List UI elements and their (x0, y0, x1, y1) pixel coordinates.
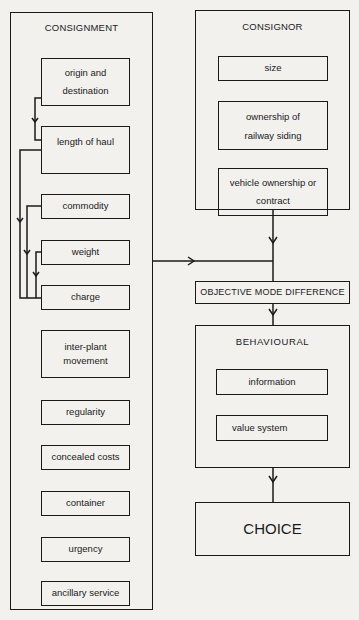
connector-lines (0, 0, 359, 620)
